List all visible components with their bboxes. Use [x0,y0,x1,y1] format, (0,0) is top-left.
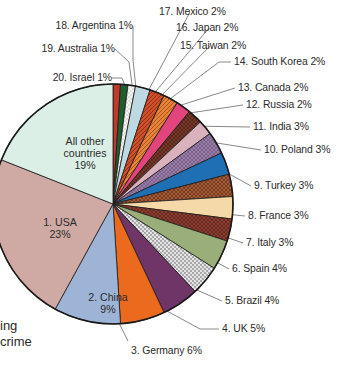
all-other-line3: 19% [30,159,140,171]
callout-label-australia: 19. Australia 1% [0,43,115,55]
callout-label-poland: 10. Poland 3% [264,144,330,156]
callout-label-argentina: 18. Argentina 1% [0,20,133,32]
usa-line2: 23% [10,228,110,240]
callout-label-turkey: 9. Turkey 3% [254,180,313,192]
callout-label-india: 11. India 3% [253,121,309,133]
cropped-caption-line1: ing [0,318,32,334]
callout-label-south-korea: 14. South Korea 2% [234,56,325,68]
callout-label-japan: 16. Japan 2% [176,22,238,34]
usa-line1: 1. USA [10,216,110,228]
china-line1: 2. China [58,291,158,303]
callout-label-canada: 13. Canada 2% [238,82,308,94]
callout-label-germany: 3. Germany 6% [131,345,202,357]
pie-chart-figure: All other countries 19% 1. USA 23% 2. Ch… [0,0,343,369]
cropped-caption: ing crime [0,318,32,349]
callout-label-mexico: 17. Mexico 2% [159,6,226,18]
callout-label-italy: 7. Italy 3% [246,237,293,249]
all-other-line2: countries [30,147,140,159]
all-other-line1: All other [30,135,140,147]
callout-label-spain: 6. Spain 4% [232,263,287,275]
slice-inner-label-all-other: All other countries 19% [30,135,140,171]
callout-label-russia: 12. Russia 2% [246,99,312,111]
callout-label-france: 8. France 3% [248,210,309,222]
china-line2: 9% [58,303,158,315]
callout-label-uk: 4. UK 5% [222,323,265,335]
callout-label-taiwan: 15. Taiwan 2% [180,40,246,52]
cropped-caption-line2: crime [0,334,32,350]
callout-label-brazil: 5. Brazil 4% [225,295,279,307]
slice-inner-label-usa: 1. USA 23% [10,216,110,240]
callout-label-israel: 20. Israel 1% [0,72,112,84]
slice-inner-label-china: 2. China 9% [58,291,158,315]
